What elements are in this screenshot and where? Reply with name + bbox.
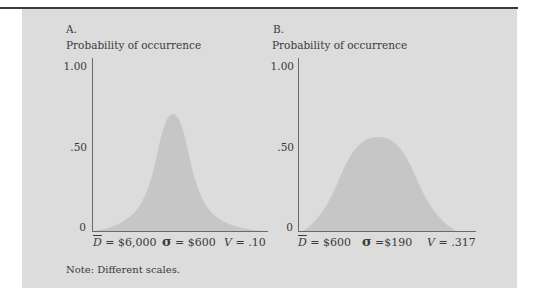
panel-b-ytick-100: 1.00	[264, 60, 294, 72]
panel-a-cv-symbol: V	[224, 236, 232, 249]
panel-b-mean-symbol: D	[298, 236, 307, 249]
panel-b-cv: V = .317	[427, 236, 476, 249]
curve-b-area	[303, 137, 456, 231]
panel-b-cv-symbol: V	[427, 236, 435, 249]
panel-a-label: A.	[66, 23, 77, 35]
panel-a-mean: D = $6,000	[93, 236, 157, 249]
panel-b-sigma-value: =$190	[372, 236, 413, 249]
figure-note: Note: Different scales.	[66, 264, 180, 276]
panel-a-ylabel: Probability of occurrence	[66, 39, 201, 51]
panel-b-label: B.	[273, 23, 284, 35]
panel-b-ytick-0: 0	[263, 221, 293, 233]
panel-b-sigma: σ =$190	[362, 235, 412, 249]
panel-b-mean-value: = $600	[307, 236, 351, 249]
panel-a-ytick-050: .50	[57, 141, 87, 153]
panel-a-ytick-0: 0	[56, 221, 86, 233]
panel-b-cv-value: = .317	[435, 236, 476, 249]
panel-a-mean-symbol: D	[93, 236, 102, 249]
panel-a-sigma: σ = $600	[162, 235, 216, 249]
panel-a-sigma-symbol: σ	[162, 234, 172, 249]
panel-a-mean-value: = $6,000	[102, 236, 157, 249]
panel-a-cv: V = .10	[224, 236, 266, 249]
panel-b-sigma-symbol: σ	[362, 234, 372, 249]
panel-b-ytick-050: .50	[264, 141, 294, 153]
panel-a-sigma-value: = $600	[172, 236, 216, 249]
panel-b-mean: D = $600	[298, 236, 351, 249]
panel-a-cv-value: = .10	[232, 236, 266, 249]
panel-b-ylabel: Probability of occurrence	[272, 39, 407, 51]
panel-a-ytick-100: 1.00	[57, 60, 87, 72]
curve-a-area	[93, 114, 268, 231]
